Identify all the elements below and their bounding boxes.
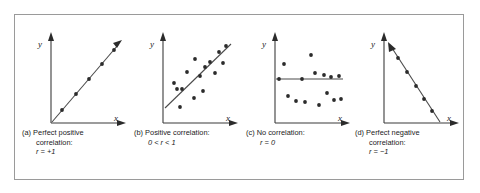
panel-positive-correlation: y x (b) Positive correlat (130, 15, 242, 179)
caption-d-line3: r = −1 (351, 147, 463, 157)
x-axis-label-a: x (113, 113, 118, 123)
caption-b-line2: 0 < r < 1 (130, 138, 242, 148)
caption-a-line2: correlation: (18, 138, 130, 148)
x-axis-label-d: x (446, 113, 451, 123)
panel-no-correlation: y x (c) No correlation: (242, 15, 354, 179)
scatter-plot-b: y x (130, 17, 242, 127)
caption-d-line1: (d) Perfect negative (351, 128, 463, 138)
x-axis-label-c: x (337, 113, 342, 123)
caption-d-line2: correlation: (351, 138, 463, 148)
caption-a-line1: (a) Perfect positive (18, 128, 130, 138)
panel-perfect-negative-correlation: y x (d) Perfect negative correlation: r … (351, 15, 463, 179)
y-axis-label-b: y (149, 39, 154, 49)
caption-c: (c) No correlation: r = 0 (242, 128, 354, 147)
x-axis-label-b: x (225, 113, 230, 123)
caption-c-line2: r = 0 (242, 138, 354, 148)
caption-d: (d) Perfect negative correlation: r = −1 (351, 128, 463, 157)
correlation-figure: y x (a) Perfect positive correlation: r … (14, 14, 464, 180)
caption-a-line3: r = +1 (18, 147, 130, 157)
y-axis-label-a: y (37, 39, 42, 49)
caption-b-line1: (b) Positive correlation: (130, 128, 242, 138)
caption-c-line1: (c) No correlation: (242, 128, 354, 138)
scatter-plot-a: y x (18, 17, 130, 127)
scatter-plot-d: y x (351, 17, 463, 127)
caption-a: (a) Perfect positive correlation: r = +1 (18, 128, 130, 157)
panel-perfect-positive-correlation: y x (a) Perfect positive correlation: r … (18, 15, 130, 179)
y-axis-label-c: y (261, 39, 266, 49)
y-axis-label-d: y (370, 39, 375, 49)
caption-b: (b) Positive correlation: 0 < r < 1 (130, 128, 242, 147)
scatter-plot-c: y x (242, 17, 354, 127)
